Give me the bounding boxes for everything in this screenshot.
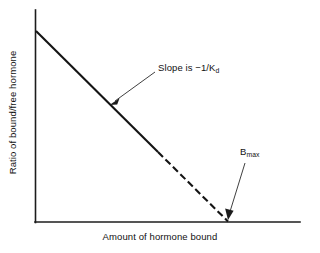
y-axis-title-container: Ratio of bound/free hormone [0,0,26,225]
slope-annotation-leader [115,72,155,101]
bmax-annotation-arrowhead [225,209,234,220]
bmax-annotation-subscript: max [246,151,259,158]
slope-annotation-subscript: d [216,67,220,74]
y-axis-title: Ratio of bound/free hormone [8,51,19,175]
data-line-dashed-segment [158,152,228,222]
x-axis-title: Amount of hormone bound [0,231,320,242]
scatchard-plot-figure: Ratio of bound/free hormone Amount of ho… [0,0,320,253]
slope-annotation-text: Slope is −1/K [158,62,216,73]
plot-canvas [0,0,320,253]
data-line-solid-segment [36,31,158,152]
bmax-annotation-label: Bmax [240,146,260,157]
bmax-annotation-leader [231,163,246,210]
slope-annotation-label: Slope is −1/Kd [158,62,219,73]
